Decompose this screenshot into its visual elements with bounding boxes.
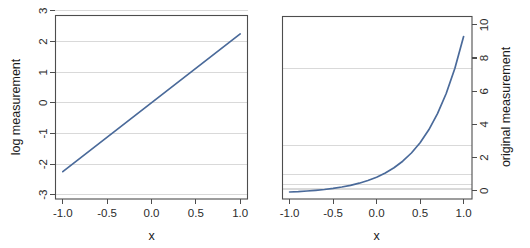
log-scale-plot: -3 -2 -1 0 1 2 3 -1.0 -0.5 0.0 0.5 1.0 bbox=[0, 0, 265, 248]
y-tick-label: 2 bbox=[478, 154, 490, 160]
y-axis-right: 0 2 4 6 8 10 bbox=[472, 19, 490, 194]
x-axis-title: x bbox=[373, 229, 380, 243]
plot-border-left bbox=[56, 16, 248, 200]
x-axis-title: x bbox=[148, 229, 155, 243]
figure-container: -3 -2 -1 0 1 2 3 -1.0 -0.5 0.0 0.5 1.0 bbox=[0, 0, 530, 248]
original-measurement-curve bbox=[290, 37, 464, 193]
y-tick-label: -3 bbox=[37, 190, 49, 200]
x-tick-label: 0.5 bbox=[188, 207, 204, 219]
y-tick-label: 6 bbox=[478, 88, 490, 94]
y-tick-label: 8 bbox=[478, 55, 490, 61]
original-scale-plot: 0 2 4 6 8 10 -1.0 -0.5 0.0 0.5 1.0 bbox=[265, 0, 530, 248]
y-tick-label: 10 bbox=[478, 19, 490, 32]
x-tick-label: 0.5 bbox=[412, 207, 428, 219]
y-tick-label: 3 bbox=[37, 8, 49, 14]
y-tick-label: -1 bbox=[37, 128, 49, 138]
plot-border-right bbox=[283, 17, 473, 200]
x-axis-left: -1.0 -0.5 0.0 0.5 1.0 bbox=[53, 199, 248, 219]
x-axis-right: -1.0 -0.5 0.0 0.5 1.0 bbox=[280, 199, 472, 219]
x-tick-label: -1.0 bbox=[53, 207, 73, 219]
original-scale-panel: 0 2 4 6 8 10 -1.0 -0.5 0.0 0.5 1.0 bbox=[265, 0, 530, 248]
y-tick-label: 4 bbox=[478, 121, 490, 128]
x-tick-label: 1.0 bbox=[456, 207, 472, 219]
y-tick-label: 0 bbox=[37, 100, 49, 106]
x-tick-label: -0.5 bbox=[97, 207, 117, 219]
gridlines-right bbox=[282, 68, 472, 190]
y-axis-left: -3 -2 -1 0 1 2 3 bbox=[37, 8, 55, 200]
y-tick-label: 1 bbox=[37, 69, 49, 75]
x-tick-label: -1.0 bbox=[280, 207, 300, 219]
y-tick-label: -2 bbox=[37, 159, 49, 169]
x-tick-label: -0.5 bbox=[323, 207, 343, 219]
y-tick-label: 0 bbox=[478, 187, 490, 193]
x-tick-label: 1.0 bbox=[232, 207, 248, 219]
x-tick-label: 0.0 bbox=[144, 207, 160, 219]
y-tick-label: 2 bbox=[37, 38, 49, 44]
x-tick-label: 0.0 bbox=[369, 207, 385, 219]
y-axis-title: original measurement bbox=[499, 46, 513, 167]
y-axis-title: log measurement bbox=[9, 58, 23, 155]
log-scale-panel: -3 -2 -1 0 1 2 3 -1.0 -0.5 0.0 0.5 1.0 bbox=[0, 0, 265, 248]
